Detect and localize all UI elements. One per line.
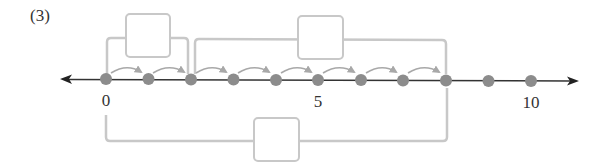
dot-8	[440, 75, 452, 87]
answer-box-3[interactable]	[254, 118, 299, 161]
dot-5	[312, 74, 324, 86]
dot-7	[397, 75, 409, 87]
dot-2	[185, 74, 197, 86]
top-bracket-1	[107, 14, 188, 74]
tick-label-0: 0	[102, 91, 111, 110]
top-bracket-2	[195, 16, 446, 74]
dot-0	[100, 73, 112, 85]
answer-box-1[interactable]	[126, 14, 170, 57]
dot-9	[483, 75, 495, 87]
dot-10	[525, 75, 537, 87]
answer-box-2[interactable]	[298, 16, 343, 59]
dot-3	[228, 74, 240, 86]
dot-4	[270, 74, 282, 86]
tick-label-5: 5	[314, 92, 323, 111]
number-line-diagram: 0 5 10	[0, 0, 606, 168]
dot-1	[143, 73, 155, 85]
tick-label-10: 10	[523, 93, 540, 112]
hop-arrows	[111, 68, 439, 73]
bottom-bracket	[106, 88, 447, 161]
dot-6	[355, 74, 367, 86]
